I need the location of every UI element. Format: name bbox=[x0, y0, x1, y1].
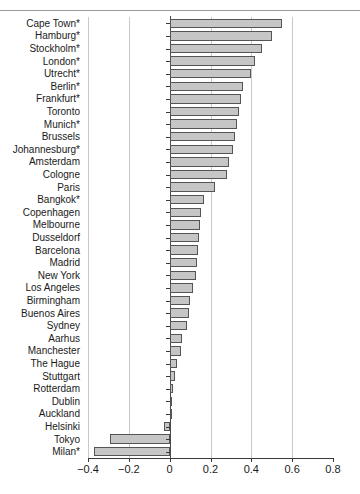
category-label: Melbourne bbox=[33, 219, 80, 230]
x-axis-tick-label: 0.8 bbox=[313, 463, 353, 476]
x-axis-tick-label: 0 bbox=[150, 463, 190, 476]
category-tick bbox=[166, 301, 170, 302]
category-label: Barcelona bbox=[35, 245, 80, 256]
category-label: Buenos Aires bbox=[21, 308, 80, 319]
category-tick bbox=[166, 452, 170, 453]
bar bbox=[170, 371, 175, 381]
bar bbox=[170, 359, 177, 369]
category-label: Birmingham bbox=[27, 295, 80, 306]
category-label: New York bbox=[38, 270, 80, 281]
category-tick bbox=[166, 23, 170, 24]
bar bbox=[170, 182, 215, 192]
category-tick bbox=[166, 162, 170, 163]
category-tick bbox=[166, 61, 170, 62]
category-label: The Hague bbox=[31, 358, 80, 369]
bar bbox=[110, 434, 169, 444]
bar bbox=[170, 119, 237, 129]
category-label: Dublin bbox=[52, 396, 80, 407]
bar bbox=[170, 44, 262, 54]
category-tick bbox=[166, 175, 170, 176]
category-label: Los Angeles bbox=[26, 282, 81, 293]
bar bbox=[170, 233, 200, 243]
bar bbox=[94, 447, 170, 457]
category-label: Madrid bbox=[49, 257, 80, 268]
bar bbox=[170, 132, 235, 142]
category-tick bbox=[166, 49, 170, 50]
bar bbox=[170, 56, 256, 66]
category-tick bbox=[166, 263, 170, 264]
category-label: Helsinki bbox=[45, 421, 80, 432]
category-label: Hamburg* bbox=[35, 30, 80, 41]
bar bbox=[170, 283, 193, 293]
x-axis-tick bbox=[292, 458, 293, 462]
category-tick bbox=[166, 288, 170, 289]
bar bbox=[170, 107, 239, 117]
category-label: Stuttgart bbox=[42, 371, 80, 382]
category-tick bbox=[166, 376, 170, 377]
bar bbox=[170, 334, 182, 344]
bar bbox=[170, 321, 187, 331]
category-label: Brussels bbox=[42, 131, 80, 142]
category-tick bbox=[166, 439, 170, 440]
bar bbox=[170, 220, 201, 230]
category-tick bbox=[166, 427, 170, 428]
category-label: Manchester bbox=[28, 345, 80, 356]
category-label: Auckland bbox=[39, 408, 80, 419]
category-label: Munich* bbox=[44, 119, 80, 130]
bar bbox=[170, 195, 205, 205]
category-label: Copenhagen bbox=[23, 207, 80, 218]
category-tick bbox=[166, 275, 170, 276]
bar bbox=[170, 346, 181, 356]
x-axis-tick-label: 0.2 bbox=[191, 463, 231, 476]
category-label: Paris bbox=[57, 182, 80, 193]
bar bbox=[170, 308, 189, 318]
category-tick bbox=[166, 212, 170, 213]
category-tick bbox=[166, 414, 170, 415]
top-partial-text bbox=[0, 0, 360, 9]
bar bbox=[170, 94, 241, 104]
category-label: Aarhus bbox=[48, 333, 80, 344]
x-axis-tick-label: 0.4 bbox=[231, 463, 271, 476]
bar bbox=[170, 157, 229, 167]
bar bbox=[170, 69, 252, 79]
category-tick bbox=[166, 250, 170, 251]
category-tick bbox=[166, 238, 170, 239]
category-tick bbox=[166, 74, 170, 75]
category-label: Dusseldorf bbox=[32, 232, 80, 243]
category-label: Berlin* bbox=[51, 81, 80, 92]
category-label: Sydney bbox=[47, 320, 80, 331]
category-tick bbox=[166, 36, 170, 37]
bar bbox=[170, 245, 199, 255]
category-tick bbox=[166, 338, 170, 339]
x-axis-tick-label: −0.4 bbox=[68, 463, 108, 476]
category-tick bbox=[166, 389, 170, 390]
bar bbox=[170, 82, 244, 92]
bar bbox=[170, 271, 197, 281]
category-tick bbox=[166, 351, 170, 352]
category-label: Toronto bbox=[47, 106, 80, 117]
category-tick bbox=[166, 112, 170, 113]
category-label: Johannesburg* bbox=[13, 144, 80, 155]
bar bbox=[170, 31, 272, 41]
category-tick bbox=[166, 313, 170, 314]
category-label: Stockholm* bbox=[29, 43, 80, 54]
category-tick bbox=[166, 149, 170, 150]
category-tick bbox=[166, 86, 170, 87]
category-tick bbox=[166, 326, 170, 327]
category-axis-labels: Cape Town*Hamburg*Stockholm*London*Utrec… bbox=[0, 17, 84, 458]
category-label: Frankfurt* bbox=[36, 93, 80, 104]
x-axis-tick bbox=[333, 458, 334, 462]
category-tick bbox=[166, 124, 170, 125]
category-label: Cape Town* bbox=[26, 18, 80, 29]
bar bbox=[170, 258, 198, 268]
category-tick bbox=[166, 137, 170, 138]
x-axis-tick bbox=[251, 458, 252, 462]
category-tick bbox=[166, 99, 170, 100]
chart-figure: Cape Town*Hamburg*Stockholm*London*Utrec… bbox=[0, 0, 360, 494]
x-axis-tick-label: 0.6 bbox=[272, 463, 312, 476]
category-label: Milan* bbox=[52, 446, 80, 457]
x-axis-tick bbox=[170, 458, 171, 462]
category-label: London* bbox=[43, 56, 80, 67]
x-axis-tick-label: −0.2 bbox=[109, 463, 149, 476]
bar bbox=[170, 170, 227, 180]
